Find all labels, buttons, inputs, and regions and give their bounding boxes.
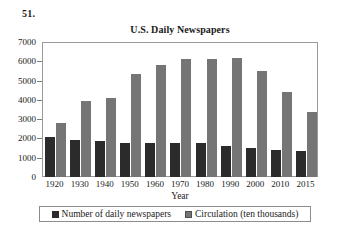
bar bbox=[106, 98, 116, 177]
bar bbox=[196, 143, 206, 177]
bar-group bbox=[170, 42, 191, 177]
bar bbox=[207, 59, 217, 177]
y-axis-tick-label: 4000 bbox=[18, 95, 36, 104]
y-axis-tick-labels: 01000200030004000500060007000 bbox=[0, 42, 40, 177]
y-axis-tick-label: 5000 bbox=[18, 76, 36, 85]
x-axis-title: Year bbox=[42, 191, 318, 201]
bar bbox=[156, 65, 166, 177]
y-axis-tick-label: 6000 bbox=[18, 57, 36, 66]
bar bbox=[271, 150, 281, 177]
bar-group bbox=[246, 42, 267, 177]
bar bbox=[70, 140, 80, 177]
bar bbox=[81, 101, 91, 177]
bar bbox=[232, 58, 242, 177]
bar bbox=[145, 143, 155, 177]
bar bbox=[170, 143, 180, 177]
bar-group bbox=[196, 42, 217, 177]
bar-group bbox=[95, 42, 116, 177]
bar bbox=[45, 137, 55, 177]
x-axis-tick-labels: 1920193019401950196019701980199020002010… bbox=[42, 179, 318, 191]
bar-group bbox=[221, 42, 242, 177]
problem-number: 51. bbox=[22, 8, 35, 19]
y-axis-tick-label: 2000 bbox=[18, 134, 36, 143]
y-axis-tick-label: 3000 bbox=[18, 115, 36, 124]
bar bbox=[131, 74, 141, 177]
y-axis-tick-label: 1000 bbox=[18, 153, 36, 162]
legend-entry: Number of daily newspapers bbox=[52, 209, 171, 219]
chart-title: U.S. Daily Newspapers bbox=[42, 24, 318, 35]
chart-legend: Number of daily newspapersCirculation (t… bbox=[39, 206, 311, 222]
bar bbox=[95, 141, 105, 177]
bar-group bbox=[296, 42, 317, 177]
bar-group bbox=[120, 42, 141, 177]
bar-group bbox=[45, 42, 66, 177]
bar bbox=[307, 112, 317, 177]
figure-container: 51. U.S. Daily Newspapers 01000200030004… bbox=[0, 0, 349, 234]
y-axis-tick-label: 7000 bbox=[18, 38, 36, 47]
bar bbox=[120, 143, 130, 177]
bar-group bbox=[70, 42, 91, 177]
bar bbox=[221, 146, 231, 177]
bar bbox=[181, 59, 191, 177]
legend-color-swatch bbox=[185, 211, 192, 218]
bar-group bbox=[145, 42, 166, 177]
bar-group bbox=[271, 42, 292, 177]
y-axis-tick-label: 0 bbox=[32, 173, 37, 182]
x-axis-tick-label: 2015 bbox=[290, 179, 320, 190]
legend-label: Circulation (ten thousands) bbox=[195, 209, 298, 219]
legend-label: Number of daily newspapers bbox=[62, 209, 171, 219]
bar bbox=[246, 148, 256, 177]
legend-color-swatch bbox=[52, 211, 59, 218]
bars-layer bbox=[42, 42, 318, 177]
legend-entry: Circulation (ten thousands) bbox=[185, 209, 298, 219]
bar bbox=[296, 151, 306, 177]
bar bbox=[56, 123, 66, 177]
bar bbox=[282, 92, 292, 177]
bar bbox=[257, 71, 267, 177]
